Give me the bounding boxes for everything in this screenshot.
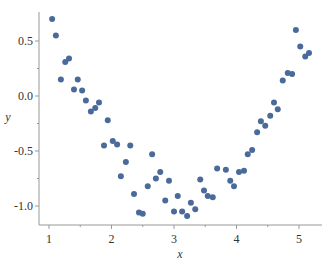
y-tick-label: -1.0 — [14, 199, 33, 213]
x-tick-label: 3 — [171, 232, 177, 246]
data-point — [271, 100, 277, 106]
scatter-chart: 0.50.0-0.5-1.012345 x y — [0, 0, 327, 267]
data-point — [254, 129, 260, 135]
data-point — [197, 177, 203, 183]
data-point — [231, 183, 237, 189]
data-point — [101, 143, 107, 149]
data-point — [184, 213, 190, 219]
data-point — [171, 209, 177, 215]
data-point — [267, 113, 273, 119]
data-point — [123, 159, 129, 165]
data-point — [223, 167, 229, 173]
data-point — [58, 77, 64, 83]
x-axis-label: x — [176, 247, 183, 261]
data-point — [241, 168, 247, 174]
data-point — [105, 117, 111, 123]
y-tick-label: 0.0 — [18, 89, 33, 103]
data-point — [201, 188, 207, 194]
data-point — [66, 56, 72, 62]
data-points — [49, 16, 312, 219]
data-point — [79, 88, 85, 94]
data-point — [71, 86, 77, 92]
data-point — [258, 118, 264, 124]
data-point — [275, 106, 281, 112]
data-point — [166, 178, 172, 184]
x-tick-label: 4 — [234, 232, 240, 246]
data-point — [96, 100, 102, 106]
data-point — [262, 123, 268, 129]
data-point — [157, 169, 163, 175]
data-point — [131, 191, 137, 197]
data-point — [214, 166, 220, 172]
data-point — [153, 176, 159, 182]
data-point — [297, 44, 303, 50]
y-tick-label: -0.5 — [14, 144, 33, 158]
data-point — [236, 169, 242, 175]
data-point — [83, 97, 89, 103]
data-point — [75, 77, 81, 83]
x-tick-label: 2 — [109, 232, 115, 246]
data-point — [162, 198, 168, 204]
y-axis-label: y — [4, 110, 11, 124]
data-point — [280, 78, 286, 84]
data-point — [118, 173, 124, 179]
data-point — [145, 183, 151, 189]
data-point — [140, 211, 146, 217]
data-point — [249, 147, 255, 153]
y-tick-label: 0.5 — [18, 34, 33, 48]
data-point — [149, 151, 155, 157]
data-point — [49, 16, 55, 22]
data-point — [179, 209, 185, 215]
data-point — [188, 200, 194, 206]
data-point — [210, 194, 216, 200]
data-point — [205, 193, 211, 199]
data-point — [293, 27, 299, 33]
data-point — [127, 143, 133, 149]
x-tick-label: 5 — [296, 232, 302, 246]
data-point — [192, 206, 198, 212]
data-point — [114, 141, 120, 147]
data-point — [227, 178, 233, 184]
data-point — [53, 33, 59, 39]
data-point — [306, 50, 312, 56]
data-point — [245, 151, 251, 157]
x-tick-label: 1 — [46, 232, 52, 246]
data-point — [289, 71, 295, 77]
data-point — [92, 105, 98, 111]
data-point — [175, 193, 181, 199]
axes: 0.50.0-0.5-1.012345 — [14, 12, 322, 246]
